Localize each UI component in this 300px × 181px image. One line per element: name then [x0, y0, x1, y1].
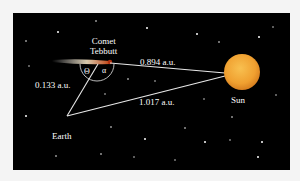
line-earth-sun [67, 76, 225, 116]
label-alpha: α [102, 66, 106, 76]
label-dist-comet-sun: 0.894 a.u. [140, 57, 176, 67]
comet-name-line1: Comet [90, 36, 117, 46]
comet-name-line2: Tebbutt [90, 46, 117, 56]
comet [52, 59, 112, 64]
diagram-graphics [0, 0, 300, 181]
label-earth: Earth [52, 131, 72, 141]
label-sun: Sun [231, 95, 245, 105]
label-theta: Θ [84, 67, 90, 77]
sun [224, 54, 260, 90]
label-dist-earth-comet: 0.133 a.u. [35, 80, 71, 90]
line-earth-comet [67, 64, 98, 116]
label-dist-earth-sun: 1.017 a.u. [139, 97, 175, 107]
label-comet: Comet Tebbutt [90, 36, 117, 56]
